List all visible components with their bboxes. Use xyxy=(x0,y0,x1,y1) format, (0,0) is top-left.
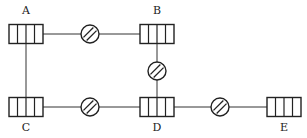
node-a xyxy=(9,25,43,44)
node-label-b: B xyxy=(153,4,161,17)
valve-icon xyxy=(81,98,99,116)
node-e xyxy=(267,98,301,117)
node-label-c: C xyxy=(22,121,30,134)
valve-icon xyxy=(148,62,166,80)
node-c xyxy=(9,98,43,117)
node-label-a: A xyxy=(21,4,31,17)
valve-icon xyxy=(81,25,99,43)
node-label-d: D xyxy=(153,121,162,134)
node-d xyxy=(140,98,174,117)
node-label-e: E xyxy=(280,121,288,134)
node-b xyxy=(140,25,174,44)
valve-icon xyxy=(211,98,229,116)
network-diagram: ABCDE xyxy=(0,0,307,138)
